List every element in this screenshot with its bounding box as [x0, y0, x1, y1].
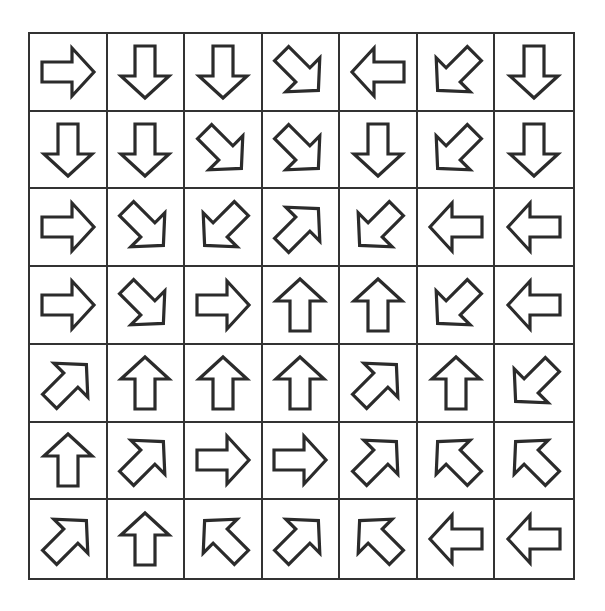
arrow-up-left-icon — [424, 428, 488, 492]
arrow-down-left-icon — [424, 40, 488, 104]
grid-cell[interactable] — [30, 267, 108, 345]
arrow-up-left-icon — [191, 507, 255, 571]
arrow-left-icon — [502, 507, 566, 571]
grid-cell[interactable] — [495, 423, 573, 501]
grid-cell[interactable] — [263, 423, 341, 501]
grid-cell[interactable] — [340, 34, 418, 112]
arrow-right-icon — [36, 40, 100, 104]
arrow-left-icon — [424, 195, 488, 259]
grid-cell[interactable] — [495, 500, 573, 578]
arrow-left-icon — [346, 40, 410, 104]
arrow-down-left-icon — [191, 195, 255, 259]
grid-cell[interactable] — [340, 500, 418, 578]
grid-cell[interactable] — [108, 34, 186, 112]
grid-cell[interactable] — [30, 423, 108, 501]
grid-cell[interactable] — [418, 34, 496, 112]
arrow-down-icon — [346, 118, 410, 182]
grid-cell[interactable] — [108, 423, 186, 501]
grid-cell[interactable] — [263, 34, 341, 112]
arrow-up-icon — [346, 273, 410, 337]
grid-cell[interactable] — [340, 267, 418, 345]
arrow-down-left-icon — [424, 118, 488, 182]
arrow-right-icon — [268, 428, 332, 492]
arrow-down-icon — [191, 40, 255, 104]
grid-cell[interactable] — [263, 500, 341, 578]
arrow-up-right-icon — [268, 195, 332, 259]
grid-cell[interactable] — [185, 500, 263, 578]
arrow-up-right-icon — [268, 507, 332, 571]
grid-cell[interactable] — [30, 500, 108, 578]
arrow-up-icon — [424, 351, 488, 415]
grid-cell[interactable] — [30, 34, 108, 112]
grid-cell[interactable] — [418, 189, 496, 267]
grid-cell[interactable] — [30, 189, 108, 267]
arrow-down-icon — [502, 118, 566, 182]
grid-cell[interactable] — [495, 345, 573, 423]
arrow-down-icon — [113, 118, 177, 182]
grid-cell[interactable] — [108, 345, 186, 423]
grid-cell[interactable] — [263, 345, 341, 423]
grid-cell[interactable] — [495, 34, 573, 112]
arrow-up-icon — [36, 428, 100, 492]
grid-cell[interactable] — [418, 500, 496, 578]
grid-cell[interactable] — [263, 189, 341, 267]
grid-cell[interactable] — [185, 423, 263, 501]
grid-cell[interactable] — [495, 112, 573, 190]
grid-cell[interactable] — [418, 423, 496, 501]
grid-cell[interactable] — [108, 267, 186, 345]
grid-cell[interactable] — [185, 34, 263, 112]
grid-cell[interactable] — [185, 345, 263, 423]
arrow-grid — [28, 32, 575, 580]
arrow-left-icon — [502, 195, 566, 259]
grid-cell[interactable] — [30, 112, 108, 190]
grid-cell[interactable] — [418, 267, 496, 345]
grid-cell[interactable] — [108, 112, 186, 190]
arrow-left-icon — [502, 273, 566, 337]
grid-cell[interactable] — [495, 267, 573, 345]
arrow-up-left-icon — [346, 507, 410, 571]
grid-cell[interactable] — [495, 189, 573, 267]
arrow-down-left-icon — [502, 351, 566, 415]
arrow-down-icon — [113, 40, 177, 104]
arrow-right-icon — [36, 273, 100, 337]
arrow-up-right-icon — [36, 351, 100, 415]
arrow-down-right-icon — [113, 273, 177, 337]
grid-cell[interactable] — [185, 112, 263, 190]
arrow-down-left-icon — [346, 195, 410, 259]
arrow-up-icon — [191, 351, 255, 415]
arrow-up-right-icon — [36, 507, 100, 571]
arrow-down-right-icon — [268, 40, 332, 104]
arrow-up-icon — [268, 273, 332, 337]
arrow-right-icon — [36, 195, 100, 259]
arrow-down-right-icon — [191, 118, 255, 182]
grid-cell[interactable] — [418, 345, 496, 423]
arrow-up-icon — [268, 351, 332, 415]
grid-cell[interactable] — [340, 423, 418, 501]
arrow-up-right-icon — [346, 351, 410, 415]
arrow-down-icon — [502, 40, 566, 104]
grid-cell[interactable] — [263, 112, 341, 190]
arrow-right-icon — [191, 428, 255, 492]
arrow-down-left-icon — [424, 273, 488, 337]
grid-cell[interactable] — [263, 267, 341, 345]
grid-cell[interactable] — [108, 189, 186, 267]
grid-cell[interactable] — [340, 189, 418, 267]
grid-cell[interactable] — [418, 112, 496, 190]
arrow-up-right-icon — [113, 428, 177, 492]
grid-cell[interactable] — [108, 500, 186, 578]
arrow-up-right-icon — [346, 428, 410, 492]
grid-cell[interactable] — [340, 112, 418, 190]
arrow-down-icon — [36, 118, 100, 182]
arrow-up-icon — [113, 507, 177, 571]
arrow-left-icon — [424, 507, 488, 571]
arrow-up-icon — [113, 351, 177, 415]
arrow-up-left-icon — [502, 428, 566, 492]
grid-cell[interactable] — [185, 189, 263, 267]
grid-cell[interactable] — [30, 345, 108, 423]
arrow-down-right-icon — [268, 118, 332, 182]
arrow-down-right-icon — [113, 195, 177, 259]
grid-cell[interactable] — [185, 267, 263, 345]
arrow-right-icon — [191, 273, 255, 337]
grid-cell[interactable] — [340, 345, 418, 423]
